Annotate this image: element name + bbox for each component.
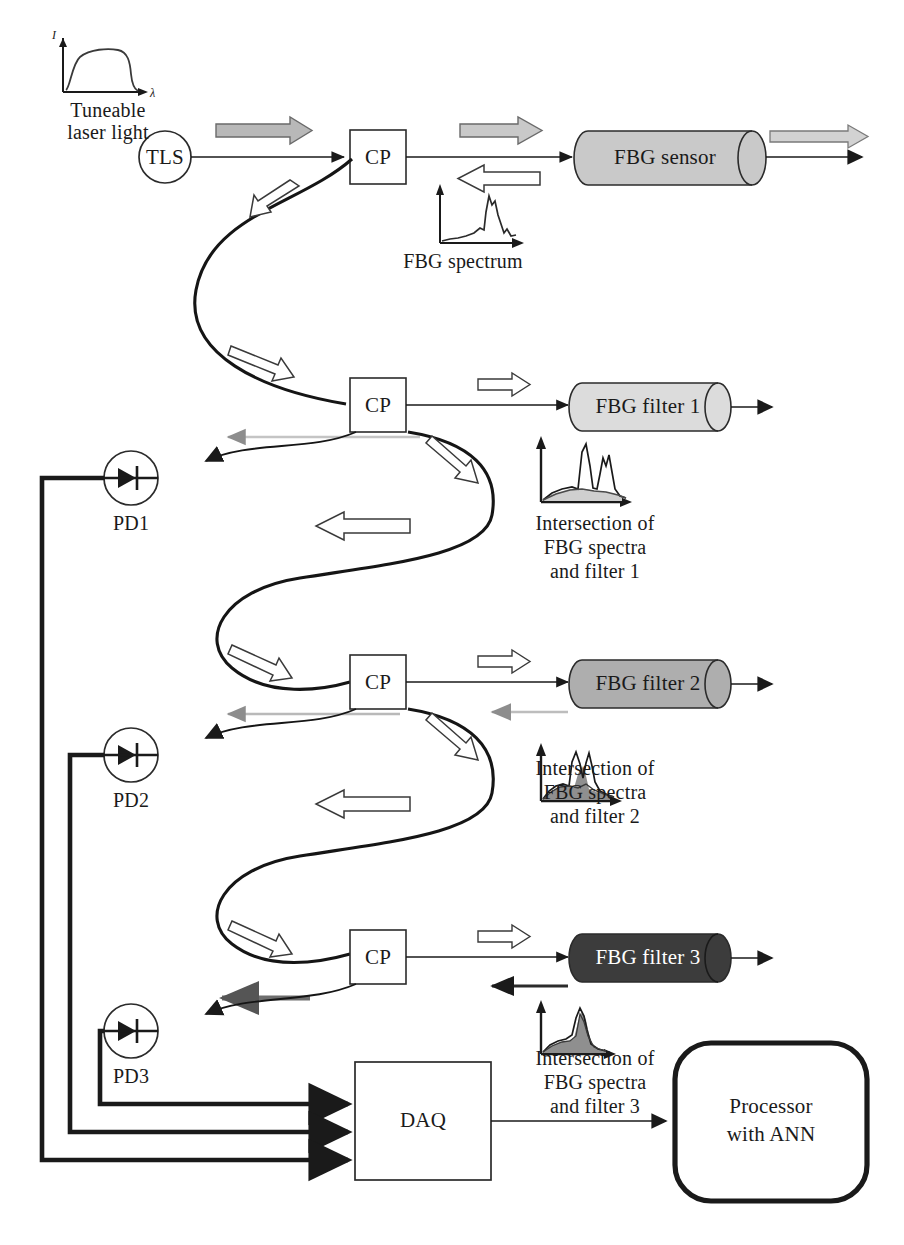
fbg-spectrum-caption: FBG spectrum <box>403 250 523 274</box>
fiber-cp3-cp4 <box>217 709 493 963</box>
photodiode-pd1-label: PD1 <box>113 512 149 536</box>
diagram-canvas: I λ Tuneable laser light TLS CP CP CP CP… <box>0 0 904 1245</box>
intersection-1-caption-line1: Intersection of <box>535 512 654 536</box>
intersection-2-caption-line1: Intersection of <box>535 757 654 781</box>
intersection-1-caption-line2: FBG spectra <box>544 536 647 560</box>
laser-caption-line1: Tuneable <box>70 99 145 123</box>
chart-tuneable-laser-light <box>59 38 148 96</box>
daq-label: DAQ <box>400 1108 446 1133</box>
hollow-arrow-forward-5 <box>478 925 530 948</box>
intersection-1-caption-line3: and filter 1 <box>550 560 640 584</box>
photodiode-pd1 <box>104 451 158 505</box>
tuneable-laser-curve <box>66 49 138 91</box>
fbg-spectrum-curve <box>442 196 516 241</box>
hollow-arrow-backward-1 <box>458 165 540 192</box>
x-axis-arrow-icon <box>138 88 148 96</box>
laser-caption-line2: laser light <box>67 121 149 145</box>
tls-label: TLS <box>146 145 184 170</box>
cylinder-fbg-filter-1-label: FBG filter 1 <box>595 394 700 419</box>
chart-fbg-spectrum <box>436 184 524 248</box>
hollow-arrow-forward-3 <box>478 373 530 396</box>
hollow-arrow-down-right-5 <box>228 921 292 957</box>
bus-pd1-daq <box>42 478 348 1160</box>
y-axis-arrow-icon <box>536 436 546 449</box>
processor-label-line1: Processor <box>729 1094 812 1119</box>
y-axis-arrow-icon <box>536 743 546 756</box>
coupler-cp4-label: CP <box>365 945 391 970</box>
y-axis-arrow-icon <box>436 184 444 195</box>
hollow-arrow-forward-4 <box>478 650 530 673</box>
laser-plot-y-axis-label: I <box>52 28 56 42</box>
photodiode-pd2-label: PD2 <box>113 789 149 813</box>
hollow-arrow-down-right-1 <box>228 346 294 381</box>
hollow-arrow-backward-2 <box>316 512 410 540</box>
intersection-3-caption-line1: Intersection of <box>535 1047 654 1071</box>
y-axis-arrow-icon <box>59 38 67 47</box>
cylinder-fbg-sensor-label: FBG sensor <box>614 145 716 170</box>
processor-label-line2: with ANN <box>727 1122 816 1147</box>
laser-plot-x-axis-label: λ <box>150 86 155 100</box>
hollow-arrow-forward-1 <box>216 117 312 144</box>
coupler-cp1-label: CP <box>365 145 391 170</box>
hollow-arrow-sensor-out <box>770 125 868 148</box>
hollow-arrow-down-right-3 <box>228 645 292 681</box>
hollow-arrow-backward-3 <box>316 790 410 818</box>
y-axis-arrow-icon <box>536 1000 546 1013</box>
intersection-2-caption-line3: and filter 2 <box>550 805 640 829</box>
cylinder-fbg-filter-2-label: FBG filter 2 <box>595 671 700 696</box>
hollow-arrow-down-left-1 <box>250 180 299 217</box>
cylinder-fbg-filter-3-label: FBG filter 3 <box>595 945 700 970</box>
intersection-3-caption-line2: FBG spectra <box>544 1071 647 1095</box>
bus-pd2-daq <box>70 755 348 1132</box>
coupler-cp2-label: CP <box>365 393 391 418</box>
diagram-vector-layer <box>0 0 904 1245</box>
coupler-cp3-label: CP <box>365 670 391 695</box>
intersection-2-caption-line2: FBG spectra <box>544 781 647 805</box>
photodiode-pd3 <box>104 1004 158 1058</box>
photodiode-pd2 <box>104 728 158 782</box>
chart-intersection-1 <box>536 436 632 507</box>
x-axis-arrow-icon <box>512 238 524 248</box>
intersection-3-caption-line3: and filter 3 <box>550 1095 640 1119</box>
fiber-cp2-cp3 <box>217 432 493 689</box>
photodiode-pd3-label: PD3 <box>113 1065 149 1089</box>
hollow-arrow-forward-2 <box>460 117 542 144</box>
